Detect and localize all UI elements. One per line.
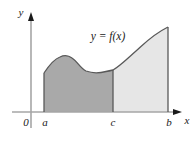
origin-label: 0 [23,116,29,128]
figure-container: y x 0 a c b y = f(x) [0,0,196,142]
x-axis-arrow-icon [173,109,182,115]
y-axis-arrow-icon [28,12,34,21]
x-axis-label: x [184,114,190,126]
curve-equation-label: y = f(x) [90,30,126,43]
tick-label-c: c [111,116,116,128]
function-area-diagram: y x 0 a c b y = f(x) [0,0,196,142]
y-axis-label: y [18,6,24,18]
tick-label-b: b [166,116,172,128]
tick-label-a: a [42,116,48,128]
